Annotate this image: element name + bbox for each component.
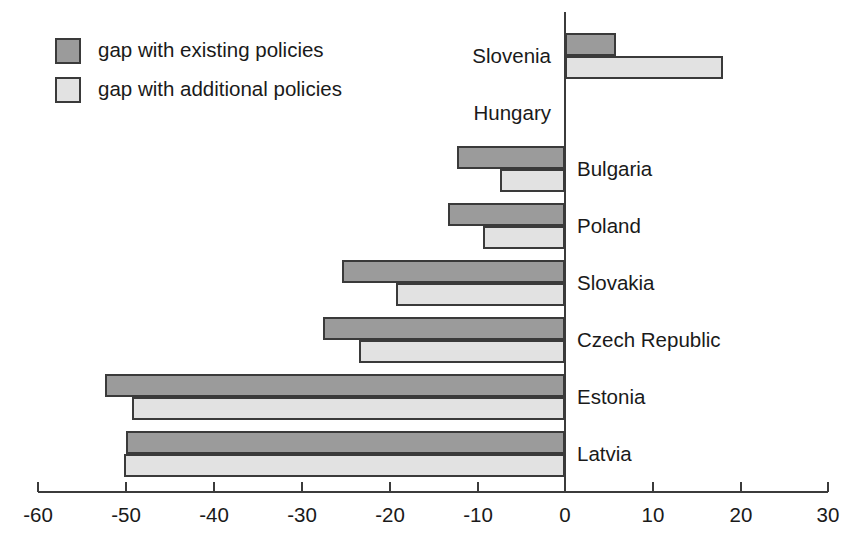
x-tick-label-7: 10 bbox=[642, 505, 665, 526]
x-tick-9 bbox=[827, 482, 829, 492]
category-label-poland: Poland bbox=[577, 216, 641, 237]
x-tick-label-3: -30 bbox=[287, 505, 317, 526]
x-tick-4 bbox=[389, 482, 391, 492]
x-tick-label-5: -10 bbox=[463, 505, 493, 526]
bar-estonia-additional bbox=[132, 397, 565, 420]
x-axis-line bbox=[38, 491, 828, 493]
category-label-latvia: Latvia bbox=[577, 444, 632, 465]
bar-slovenia-existing bbox=[565, 33, 616, 56]
category-label-slovenia: Slovenia bbox=[472, 46, 551, 67]
x-tick-label-0: -60 bbox=[23, 505, 53, 526]
x-tick-label-4: -20 bbox=[375, 505, 405, 526]
category-label-hungary: Hungary bbox=[474, 103, 552, 124]
x-tick-label-2: -40 bbox=[199, 505, 229, 526]
bar-poland-existing bbox=[448, 203, 565, 226]
bar-chart: gap with existing policies gap with addi… bbox=[0, 0, 854, 556]
plot-area: Slovenia Hungary Bulgaria Poland Slovaki… bbox=[0, 0, 854, 556]
bar-bulgaria-existing bbox=[457, 146, 565, 169]
category-label-czech-republic: Czech Republic bbox=[577, 330, 721, 351]
x-tick-7 bbox=[652, 482, 654, 492]
bar-slovakia-existing bbox=[342, 260, 565, 283]
category-label-bulgaria: Bulgaria bbox=[577, 159, 652, 180]
x-tick-8 bbox=[740, 482, 742, 492]
x-tick-5 bbox=[477, 482, 479, 492]
bar-poland-additional bbox=[483, 226, 565, 249]
bar-slovenia-additional bbox=[565, 56, 723, 79]
x-tick-label-9: 30 bbox=[817, 505, 840, 526]
category-label-slovakia: Slovakia bbox=[577, 273, 655, 294]
category-label-estonia: Estonia bbox=[577, 387, 645, 408]
bar-latvia-additional bbox=[124, 454, 565, 477]
bar-slovakia-additional bbox=[396, 283, 565, 306]
bar-estonia-existing bbox=[105, 374, 565, 397]
bar-czech-republic-additional bbox=[359, 340, 565, 363]
x-tick-label-6: 0 bbox=[559, 505, 570, 526]
x-tick-0 bbox=[37, 482, 39, 492]
x-tick-label-1: -50 bbox=[111, 505, 141, 526]
bar-bulgaria-additional bbox=[500, 169, 565, 192]
x-tick-6 bbox=[564, 482, 566, 492]
x-tick-label-8: 20 bbox=[730, 505, 753, 526]
x-tick-3 bbox=[301, 482, 303, 492]
bar-czech-republic-existing bbox=[323, 317, 565, 340]
bar-latvia-existing bbox=[126, 431, 565, 454]
x-tick-1 bbox=[125, 482, 127, 492]
x-tick-2 bbox=[213, 482, 215, 492]
